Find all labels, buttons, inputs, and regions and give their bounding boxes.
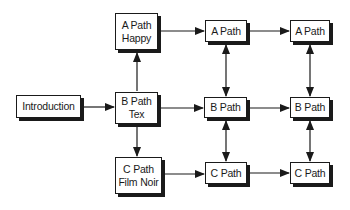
node-label: A Path [295, 25, 325, 38]
node-a-path-3: A Path [290, 20, 330, 42]
node-label: B Path [295, 101, 325, 114]
node-c-path-3: C Path [290, 162, 330, 184]
node-c-path-film-noir: C Path Film Noir [115, 157, 162, 194]
node-label: C Path [295, 167, 326, 180]
node-label: Introduction [22, 100, 74, 113]
node-label: B Path [121, 95, 151, 108]
flowchart-diagram: Introduction A Path Happy B Path Tex C P… [0, 0, 350, 210]
node-label: A Path [211, 25, 241, 38]
node-c-path-2: C Path [205, 162, 247, 184]
node-label: A Path [122, 19, 152, 32]
node-b-path-3: B Path [290, 97, 330, 118]
node-label: C Path [211, 167, 242, 180]
node-introduction: Introduction [16, 95, 81, 118]
node-sublabel: Tex [129, 108, 145, 121]
node-b-path-2: B Path [204, 97, 247, 118]
node-label: C Path [123, 163, 154, 176]
node-sublabel: Happy [122, 32, 151, 45]
node-label: B Path [210, 101, 240, 114]
node-a-path-happy: A Path Happy [115, 13, 158, 50]
node-a-path-2: A Path [205, 20, 247, 42]
node-sublabel: Film Noir [118, 176, 158, 189]
node-b-path-tex: B Path Tex [115, 92, 158, 124]
